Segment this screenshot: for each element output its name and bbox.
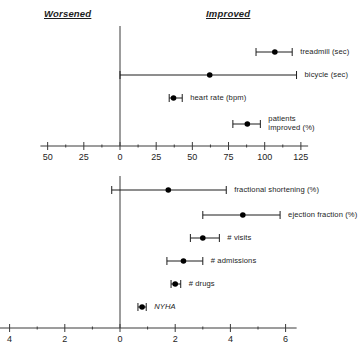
x-axis-tick-label: 6 bbox=[283, 334, 288, 344]
x-axis-tick-label: 4 bbox=[228, 334, 233, 344]
x-axis-tick-label: 2 bbox=[62, 334, 67, 344]
plot-area-bottom-panel bbox=[0, 176, 362, 352]
series-label: # drugs bbox=[189, 280, 215, 289]
series-label: heart rate (bpm) bbox=[190, 94, 246, 103]
data-point-marker bbox=[245, 121, 251, 127]
header-improved: Improved bbox=[206, 8, 250, 19]
header-worsened: Worsened bbox=[44, 8, 91, 19]
x-axis-tick-label: 25 bbox=[151, 152, 161, 162]
x-axis-tick-label: 100 bbox=[257, 152, 272, 162]
chart-panel-top: 50250255075100125treadmill (sec)bicycle … bbox=[0, 20, 362, 170]
data-row bbox=[203, 211, 280, 219]
series-label: # visits bbox=[227, 234, 251, 243]
x-axis-tick-label: 0 bbox=[117, 334, 122, 344]
data-row bbox=[167, 257, 203, 265]
x-axis-tick-label: 125 bbox=[293, 152, 308, 162]
data-row bbox=[120, 71, 297, 79]
data-point-marker bbox=[166, 187, 172, 193]
data-row bbox=[169, 94, 182, 102]
data-point-marker bbox=[240, 212, 246, 218]
series-label: ejection fraction (%) bbox=[288, 211, 357, 220]
data-row bbox=[171, 280, 181, 288]
series-label: patientsimproved (%) bbox=[268, 115, 314, 132]
series-label: NYHA bbox=[154, 303, 176, 312]
data-point-marker bbox=[200, 235, 206, 241]
series-label: treadmill (sec) bbox=[300, 48, 349, 57]
data-point-marker bbox=[272, 49, 278, 55]
data-row bbox=[112, 186, 227, 194]
data-point-marker bbox=[172, 281, 178, 287]
forest-plot-figure: Worsened Improved 50250255075100125tread… bbox=[0, 0, 362, 358]
x-axis-tick-label: 50 bbox=[187, 152, 197, 162]
data-point-marker bbox=[171, 95, 177, 101]
x-axis-tick-label: 75 bbox=[224, 152, 234, 162]
plot-area-top-panel bbox=[0, 20, 362, 170]
data-row bbox=[190, 234, 219, 242]
series-label: # admissions bbox=[211, 257, 257, 266]
data-row bbox=[256, 48, 292, 56]
series-label: fractional shortening (%) bbox=[234, 186, 319, 195]
data-row bbox=[233, 120, 260, 128]
data-point-marker bbox=[181, 258, 187, 264]
data-point-marker bbox=[139, 304, 145, 310]
data-point-marker bbox=[207, 72, 213, 78]
data-row bbox=[138, 303, 146, 311]
x-axis-tick-label: 25 bbox=[79, 152, 89, 162]
x-axis-tick-label: 50 bbox=[43, 152, 53, 162]
chart-panel-bottom: 420246fractional shortening (%)ejection … bbox=[0, 176, 362, 352]
x-axis-tick-label: 2 bbox=[173, 334, 178, 344]
x-axis-tick-label: 4 bbox=[7, 334, 12, 344]
x-axis-tick-label: 0 bbox=[117, 152, 122, 162]
series-label: bicycle (sec) bbox=[305, 71, 349, 80]
